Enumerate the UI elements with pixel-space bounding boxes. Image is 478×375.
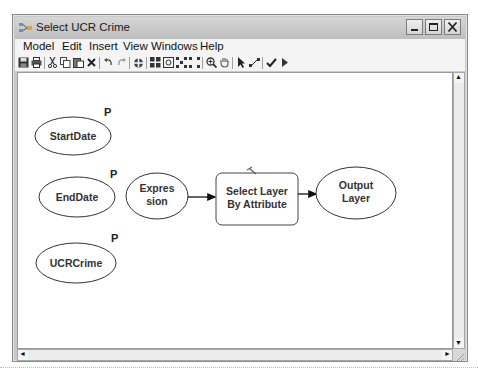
fit-to-window-icon[interactable] [176, 57, 187, 68]
node-label-line1: Expres [139, 182, 174, 194]
add-data-icon[interactable] [133, 57, 144, 68]
select-pointer-icon[interactable] [236, 57, 247, 68]
node-startdate[interactable]: StartDate P [35, 106, 111, 155]
connect-icon[interactable] [249, 57, 260, 68]
cut-icon[interactable] [47, 57, 58, 68]
run-icon[interactable] [279, 57, 290, 68]
copy-icon[interactable] [60, 57, 71, 68]
scroll-right-button[interactable]: ► [442, 350, 452, 360]
paste-icon[interactable] [73, 57, 84, 68]
print-icon[interactable] [31, 57, 42, 68]
model-canvas[interactable]: StartDate P EndDate P UCRCrime P Expres … [17, 72, 453, 349]
scroll-up-icon: ▲ [455, 73, 462, 80]
page-divider [0, 367, 478, 368]
scroll-left-icon: ◄ [19, 350, 26, 357]
node-ucrcrime[interactable]: UCRCrime P [36, 232, 118, 283]
scroll-down-button[interactable]: ▼ [454, 338, 464, 348]
parameter-marker: P [110, 168, 117, 180]
node-select-layer-by-attribute[interactable]: Select Layer By Attribute [216, 167, 298, 225]
toolbar-separator [44, 57, 45, 69]
node-enddate[interactable]: EndDate P [39, 168, 117, 217]
auto-layout-icon[interactable] [150, 57, 161, 68]
zoom-in-icon[interactable] [206, 57, 217, 68]
scroll-down-icon: ▼ [455, 339, 462, 346]
node-label: UCRCrime [50, 257, 103, 269]
toolbar-separator [129, 57, 130, 69]
node-label-line2: sion [146, 195, 168, 207]
minimize-icon [411, 29, 418, 31]
modelbuilder-app-icon [19, 22, 33, 34]
node-label-line2: Layer [342, 192, 370, 204]
close-icon [445, 20, 460, 34]
node-label: StartDate [50, 130, 97, 142]
maximize-icon [429, 23, 438, 31]
close-button[interactable] [444, 19, 461, 35]
menu-view[interactable]: View [123, 40, 148, 52]
modelbuilder-window: Select UCR Crime Model Edit Insert View … [12, 14, 468, 362]
select-all-icon[interactable] [189, 57, 200, 68]
redo-icon[interactable] [116, 57, 127, 68]
pan-icon[interactable] [219, 57, 230, 68]
window-title: Select UCR Crime [36, 21, 130, 33]
toolbar-separator [146, 57, 147, 69]
node-label-line1: Select Layer [226, 185, 288, 197]
resize-grip-icon [453, 351, 465, 363]
delete-icon[interactable] [86, 57, 97, 68]
toolbar-separator [202, 57, 203, 69]
horizontal-scrollbar[interactable]: ◄ ► [17, 349, 453, 361]
parameter-marker: P [104, 106, 111, 118]
validate-icon[interactable] [266, 57, 277, 68]
maximize-button[interactable] [425, 19, 442, 35]
scroll-up-button[interactable]: ▲ [454, 73, 464, 83]
resize-grip[interactable] [453, 349, 465, 361]
scroll-left-button[interactable]: ◄ [18, 350, 28, 360]
scroll-right-icon: ► [444, 350, 451, 357]
title-bar[interactable]: Select UCR Crime [15, 17, 465, 39]
toolbar-separator [262, 57, 263, 69]
toolbar-separator [232, 57, 233, 69]
menu-edit[interactable]: Edit [62, 40, 82, 52]
parameter-marker: P [111, 232, 118, 244]
save-icon[interactable] [18, 57, 29, 68]
node-output-layer[interactable]: Output Layer [316, 167, 396, 219]
menu-help[interactable]: Help [200, 40, 224, 52]
toolbar-separator [99, 57, 100, 69]
node-label: EndDate [56, 191, 99, 203]
node-expression[interactable]: Expres sion [126, 173, 188, 219]
menu-windows[interactable]: Windows [151, 40, 198, 52]
undo-icon[interactable] [103, 57, 114, 68]
node-label-line2: By Attribute [227, 198, 287, 210]
toolbar [15, 55, 465, 71]
full-extent-icon[interactable] [163, 57, 174, 68]
vertical-scrollbar[interactable]: ▲ ▼ [453, 72, 465, 349]
minimize-button[interactable] [406, 19, 423, 35]
node-label-line1: Output [339, 179, 374, 191]
menu-model[interactable]: Model [23, 40, 54, 52]
menu-insert[interactable]: Insert [89, 40, 118, 52]
menu-bar: Model Edit Insert View Windows Help [15, 39, 465, 55]
